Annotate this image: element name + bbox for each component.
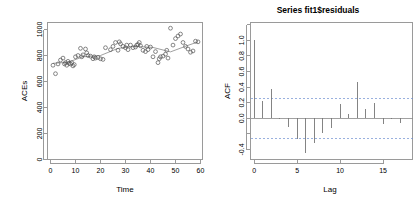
scatter-xtick-50: 50	[172, 167, 180, 174]
scatter-point	[166, 56, 170, 60]
scatter-plot-svg: 0 200 400 600 800 1000 0 10	[0, 0, 210, 209]
scatter-point	[61, 56, 65, 60]
scatter-point	[156, 61, 160, 65]
scatter-x-axis	[51, 160, 201, 164]
scatter-point	[114, 41, 118, 45]
scatter-ytick-200: 200	[36, 128, 43, 140]
scatter-point	[59, 58, 63, 62]
scatter-y-axis	[44, 30, 48, 160]
scatter-point	[104, 46, 108, 50]
scatter-ytick-800: 800	[36, 50, 43, 62]
scatter-point	[54, 72, 58, 76]
acf-xlabel: Lag	[323, 185, 336, 194]
acf-y-axis	[247, 25, 251, 150]
scatter-x-ticklabels: 0 10 20 30 40 50 60	[49, 167, 205, 174]
scatter-point	[101, 58, 105, 62]
scatter-xtick-30: 30	[122, 167, 130, 174]
acf-ytick-02: 0.2	[238, 98, 245, 108]
scatter-point	[169, 26, 173, 30]
scatter-point	[171, 43, 175, 47]
scatter-ytick-600: 600	[36, 76, 43, 88]
scatter-ytick-0: 0	[36, 157, 43, 161]
scatter-ytick-1000: 1000	[36, 22, 43, 38]
scatter-point	[176, 34, 180, 38]
acf-x-ticklabels: 0 5 10 15	[252, 167, 387, 174]
acf-ytick-10: 1.0	[238, 35, 245, 45]
scatter-xtick-60: 60	[197, 167, 205, 174]
acf-ytick-00: 0.0	[238, 113, 245, 123]
acf-plot-box	[251, 23, 413, 160]
scatter-plot-box	[48, 23, 203, 160]
acf-xtick-5: 5	[295, 167, 299, 174]
scatter-xtick-40: 40	[147, 167, 155, 174]
scatter-point	[181, 41, 185, 45]
scatter-point	[116, 48, 120, 52]
scatter-point	[111, 45, 115, 49]
acf-bars-group	[254, 40, 400, 153]
acf-ytick-04: 0.4	[238, 82, 245, 92]
acf-plot-svg: Series fit1$residuals -0.4 0.0 0.	[210, 0, 420, 209]
scatter-point	[126, 48, 130, 52]
scatter-xtick-10: 10	[72, 167, 80, 174]
scatter-point	[161, 54, 165, 58]
scatter-point	[164, 52, 168, 56]
scatter-point	[84, 47, 88, 51]
scatter-point	[79, 46, 83, 50]
scatter-trend-line	[53, 42, 198, 63]
scatter-point	[154, 50, 158, 54]
acf-ytick-neg04: -0.4	[238, 143, 245, 155]
acf-x-axis	[254, 160, 383, 164]
trend-line-path	[53, 42, 198, 63]
scatter-xtick-0: 0	[49, 167, 53, 174]
scatter-panel: 0 200 400 600 800 1000 0 10	[0, 0, 210, 209]
scatter-ylabel: ACEs	[20, 81, 29, 101]
scatter-point	[179, 32, 183, 36]
acf-title: Series fit1$residuals	[277, 5, 360, 15]
acf-y-ticklabels: -0.4 0.0 0.2 0.4 0.6 0.8 1.0	[238, 35, 245, 155]
acf-ytick-08: 0.8	[238, 51, 245, 61]
acf-panel: Series fit1$residuals -0.4 0.0 0.	[210, 0, 420, 209]
figure-root: 0 200 400 600 800 1000 0 10	[0, 0, 420, 209]
scatter-xtick-20: 20	[97, 167, 105, 174]
scatter-xlabel: Time	[116, 185, 134, 194]
scatter-ytick-400: 400	[36, 102, 43, 114]
acf-ylabel: ACF	[223, 83, 232, 99]
scatter-point	[51, 63, 55, 67]
scatter-point	[151, 55, 155, 59]
scatter-y-ticklabels: 0 200 400 600 800 1000	[36, 22, 43, 162]
acf-xtick-15: 15	[379, 167, 387, 174]
acf-xtick-10: 10	[336, 167, 344, 174]
acf-xtick-0: 0	[252, 167, 256, 174]
acf-ytick-06: 0.6	[238, 67, 245, 77]
scatter-points-group	[51, 26, 200, 75]
